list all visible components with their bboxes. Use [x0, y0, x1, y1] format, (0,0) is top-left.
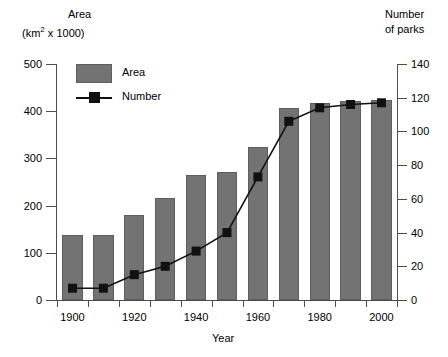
right-axis-tick-label: 80: [411, 159, 423, 171]
left-axis-tick-label: 400: [0, 105, 42, 117]
number-marker: [192, 247, 201, 256]
right-axis-tick: [397, 64, 407, 65]
left-axis-title-line2: (km2 x 1000): [22, 23, 85, 40]
line-series-number: [57, 64, 397, 300]
left-axis-tick: [46, 206, 56, 207]
right-axis-tick: [397, 131, 407, 132]
x-axis-line: [46, 300, 407, 301]
left-axis-tick: [46, 64, 56, 65]
number-line-path: [73, 103, 382, 288]
x-axis-tick: [304, 300, 305, 307]
chart-container: Area (km2 x 1000) Number of parks Area N…: [0, 0, 448, 357]
left-axis-tick-label: 500: [0, 58, 42, 70]
left-axis-title-unit-post: x 1000): [45, 27, 85, 39]
left-axis-tick-label: 100: [0, 247, 42, 259]
right-axis-title-line2: of parks: [385, 23, 424, 36]
x-axis-tick: [88, 300, 89, 307]
left-axis-title-line1: Area: [68, 8, 91, 21]
x-axis-tick: [335, 300, 336, 307]
left-axis-tick: [46, 111, 56, 112]
x-axis-tick: [366, 300, 367, 307]
number-marker: [99, 284, 108, 293]
x-axis-tick-label: 1920: [117, 311, 151, 323]
x-axis-tick: [273, 300, 274, 307]
x-axis-tick: [119, 300, 120, 307]
x-axis-title: Year: [212, 332, 234, 344]
right-axis-tick-label: 0: [411, 294, 417, 306]
left-axis-tick: [46, 158, 56, 159]
left-axis-tick-label: 0: [0, 294, 42, 306]
x-axis-tick-label: 1900: [56, 311, 90, 323]
right-axis-tick-label: 20: [411, 260, 423, 272]
x-axis-tick: [181, 300, 182, 307]
right-axis-tick: [397, 266, 407, 267]
x-axis-tick-label: 2000: [365, 311, 399, 323]
number-marker: [315, 103, 324, 112]
right-axis-title-line1: Number: [385, 8, 424, 21]
x-axis-tick: [57, 300, 58, 307]
plot-area: [57, 64, 397, 300]
x-axis-tick: [150, 300, 151, 307]
left-axis-tick: [46, 300, 56, 301]
number-marker: [161, 262, 170, 271]
x-axis-tick-label: 1980: [303, 311, 337, 323]
number-marker: [253, 172, 262, 181]
right-axis-tick: [397, 98, 407, 99]
right-axis-tick-label: 100: [411, 125, 429, 137]
left-axis-tick-label: 300: [0, 152, 42, 164]
x-axis-tick: [397, 300, 398, 307]
x-axis-tick: [212, 300, 213, 307]
right-axis-tick-label: 120: [411, 92, 429, 104]
right-axis-tick: [397, 300, 407, 301]
right-axis-tick: [397, 165, 407, 166]
number-marker: [377, 98, 386, 107]
x-axis-tick-label: 1960: [241, 311, 275, 323]
x-axis-tick: [243, 300, 244, 307]
right-axis-tick-label: 140: [411, 58, 429, 70]
left-axis-tick: [46, 253, 56, 254]
right-axis-tick-label: 60: [411, 193, 423, 205]
left-axis-title-unit-pre: (km: [22, 27, 40, 39]
right-axis-tick: [397, 233, 407, 234]
left-axis-tick-label: 200: [0, 200, 42, 212]
x-axis-tick-label: 1940: [179, 311, 213, 323]
number-marker: [284, 117, 293, 126]
number-marker: [223, 228, 232, 237]
right-axis-tick: [397, 199, 407, 200]
number-marker: [130, 270, 139, 279]
number-marker: [346, 100, 355, 109]
number-markers: [68, 98, 386, 292]
right-axis-tick-label: 40: [411, 227, 423, 239]
number-marker: [68, 284, 77, 293]
